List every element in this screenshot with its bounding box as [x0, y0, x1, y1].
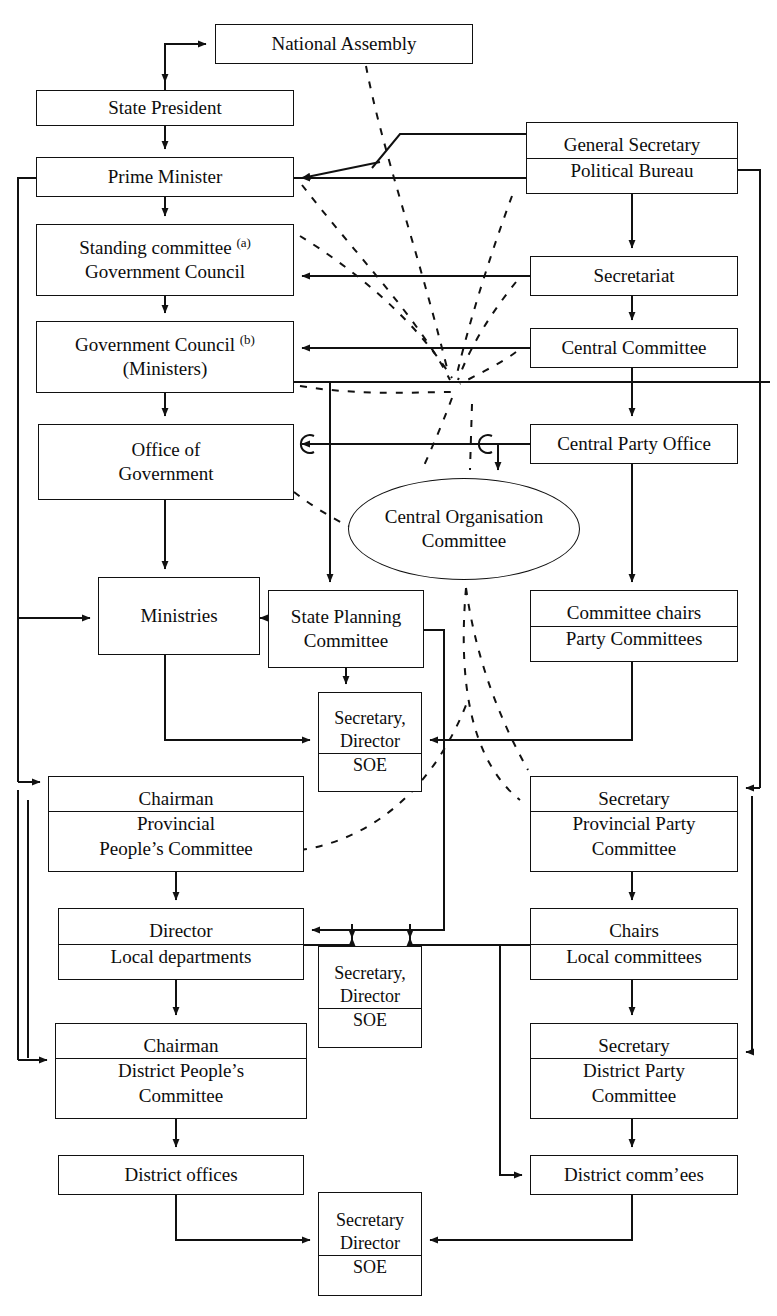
node-label-line-3: SOE [319, 1008, 421, 1032]
node-label-line-1: State Planning [269, 605, 423, 629]
node-central-organisation-committee[interactable]: Central Organisation Committee [348, 478, 580, 580]
node-label-line-3: SOE [319, 1255, 421, 1279]
node-general-secretary[interactable]: General Secretary Political Bureau [526, 122, 738, 194]
node-committee-chairs[interactable]: Committee chairs Party Committees [530, 590, 738, 662]
node-label-line-2: Local committees [531, 944, 737, 969]
node-label-line-1: Government Council (b) [37, 333, 293, 357]
node-label: Central Committee [531, 336, 737, 360]
node-label: Secretariat [531, 264, 737, 288]
node-office-of-government[interactable]: Office of Government [38, 424, 294, 500]
node-label-line-1: Secretary [319, 1209, 421, 1232]
node-label-line-3: Committee [531, 837, 737, 861]
node-district-party-committee[interactable]: Secretary District Party Committee [530, 1023, 738, 1119]
node-label-line-2: Director [319, 1232, 421, 1255]
node-label-line-2: Provincial Party [531, 811, 737, 836]
node-label-line-2: Political Bureau [527, 158, 737, 183]
node-ministries[interactable]: Ministries [98, 577, 260, 655]
node-label-line-1: Director [59, 919, 303, 943]
node-label-line-2: Director [319, 730, 421, 753]
node-label-line-2: District Party [531, 1058, 737, 1083]
node-provincial-party-committee[interactable]: Secretary Provincial Party Committee [530, 776, 738, 872]
node-label-line-3: People’s Committee [49, 837, 303, 861]
node-standing-committee[interactable]: Standing committee (a) Government Counci… [36, 224, 294, 296]
node-label-line-1: Central Organisation [348, 505, 580, 529]
node-provincial-director[interactable]: Director Local departments [58, 908, 304, 980]
node-state-president[interactable]: State President [36, 90, 294, 126]
node-local-chairs[interactable]: Chairs Local committees [530, 908, 738, 980]
node-label-line-3: SOE [319, 753, 421, 777]
node-district-offices[interactable]: District offices [58, 1155, 304, 1195]
node-label-line-2: Party Committees [531, 626, 737, 651]
node-label-line-1: Secretary, [319, 962, 421, 985]
node-soe-bottom[interactable]: Secretary Director SOE [318, 1192, 422, 1296]
node-provincial-peoples-committee[interactable]: Chairman Provincial People’s Committee [48, 776, 304, 872]
node-label-line-1: Chairman [49, 787, 303, 811]
node-label-line-2: District People’s [56, 1058, 306, 1083]
node-label-line-2: Provincial [49, 811, 303, 836]
node-central-committee[interactable]: Central Committee [530, 328, 738, 368]
footnote-marker: (a) [236, 234, 250, 249]
node-label: Central Party Office [531, 432, 737, 456]
node-district-peoples-committee[interactable]: Chairman District People’s Committee [55, 1023, 307, 1119]
node-soe-central[interactable]: Secretary, Director SOE [318, 692, 422, 792]
node-label-line-2: Director [319, 985, 421, 1008]
node-label: Prime Minister [37, 165, 293, 189]
node-label: District offices [59, 1163, 303, 1187]
node-prime-minister[interactable]: Prime Minister [36, 157, 294, 197]
node-district-committees[interactable]: District comm’ees [530, 1155, 738, 1195]
node-label-line-1: Secretary [531, 787, 737, 811]
cropped-title-strip [0, 0, 777, 14]
node-label-line-3: Committee [531, 1084, 737, 1108]
node-label-line-2: Committee [269, 629, 423, 653]
node-central-party-office[interactable]: Central Party Office [530, 424, 738, 464]
node-label: District comm’ees [531, 1163, 737, 1187]
node-soe-district-mid[interactable]: Secretary, Director SOE [318, 946, 422, 1048]
node-label-line-2: Local departments [59, 944, 303, 969]
node-label-line-2: Government Council [37, 260, 293, 284]
node-government-council[interactable]: Government Council (b) (Ministers) [36, 321, 294, 393]
node-label-line-2: Committee [348, 529, 580, 553]
node-state-planning-committee[interactable]: State Planning Committee [268, 590, 424, 668]
node-label: State President [37, 96, 293, 120]
node-label-line-2: (Ministers) [37, 357, 293, 381]
node-label-line-3: Committee [56, 1084, 306, 1108]
node-label: Ministries [99, 604, 259, 628]
node-label-line-1: Secretary [531, 1034, 737, 1058]
node-label-line-1: Secretary, [319, 707, 421, 730]
node-label-line-1: Chairman [56, 1034, 306, 1058]
node-secretariat[interactable]: Secretariat [530, 256, 738, 296]
node-label-line-1: Standing committee (a) [37, 236, 293, 260]
node-label-line-1: Committee chairs [531, 601, 737, 625]
node-label: National Assembly [216, 32, 472, 56]
node-label-line-1: Chairs [531, 919, 737, 943]
node-label-line-1: Office of [39, 438, 293, 462]
org-chart-canvas: National Assembly State President Prime … [0, 0, 777, 1316]
footnote-marker: (b) [240, 331, 255, 346]
node-label-line-2: Government [39, 462, 293, 486]
node-national-assembly[interactable]: National Assembly [215, 24, 473, 64]
node-label-line-1: General Secretary [527, 133, 737, 157]
